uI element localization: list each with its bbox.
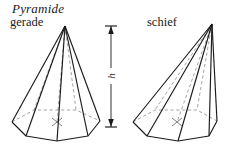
left-pyramid-hidden-base-edges — [12, 110, 100, 122]
left-pyramid-label: gerade — [10, 15, 43, 30]
height-arrowhead-up — [108, 26, 114, 34]
left-pyramid-group — [12, 26, 100, 141]
left-pyramid-lateral-edges — [12, 26, 100, 141]
height-arrowhead-down — [108, 119, 114, 127]
right-pyramid-hidden-lateral-edges — [155, 24, 212, 110]
right-pyramid-label: schief — [147, 15, 177, 30]
height-label: h — [105, 68, 117, 84]
right-pyramid-centre-mark — [172, 118, 182, 126]
right-pyramid-group — [133, 24, 217, 141]
pyramide-figure: Pyramide gerade schief h — [0, 0, 227, 158]
right-pyramid-altitude — [177, 24, 212, 122]
